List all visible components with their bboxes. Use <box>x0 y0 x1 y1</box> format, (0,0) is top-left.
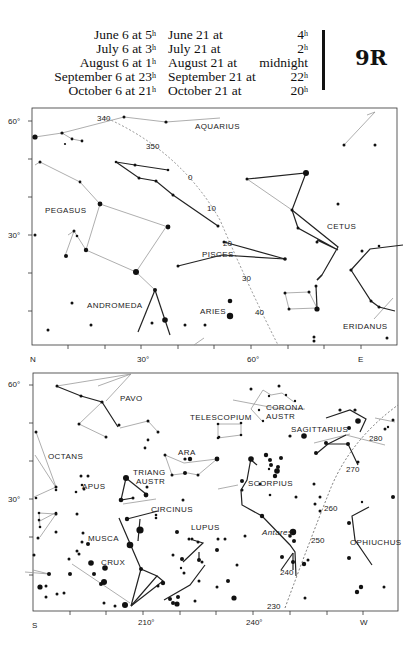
constellation-label: SCORPIUS <box>248 479 293 488</box>
x-axis-label: 210° <box>138 618 155 627</box>
constellation-label: AUSTR <box>136 477 165 486</box>
constellation-label: PAVO <box>120 394 143 403</box>
constellation-label: TELESCOPIUM <box>190 413 252 422</box>
x-axis-label: S <box>32 621 37 630</box>
constellation-label: CIRCINUS <box>151 505 193 514</box>
ecliptic-mark: 230 <box>267 602 281 611</box>
constellation-label: LUPUS <box>191 523 220 532</box>
star-label-antares: Antares <box>261 528 292 537</box>
constellation-label: APUS <box>82 482 105 491</box>
y-axis-label: 30° <box>8 495 20 504</box>
constellation-label: OCTANS <box>48 452 83 461</box>
constellation-label: OPHIUCHUS <box>350 538 402 547</box>
constellation-label: MUSCA <box>88 534 119 543</box>
constellation-label: ARA <box>178 448 196 457</box>
constellation-label: SAGITTARIUS <box>291 425 348 434</box>
ecliptic-mark: 270 <box>346 465 360 474</box>
constellation-label: TRIANG <box>133 468 166 477</box>
constellation-label: CRUX <box>101 558 126 567</box>
ecliptic-mark: 260 <box>324 504 338 513</box>
constellation-label: AUSTR <box>266 412 295 421</box>
south-star-map: 60° 30° S 210° 240° W 280 270 260 250 24… <box>0 0 418 647</box>
ecliptic-mark: 250 <box>311 536 325 545</box>
x-axis-label: 240° <box>246 618 263 627</box>
y-axis-label: 60° <box>8 380 20 389</box>
south-map-frame <box>33 373 398 611</box>
x-axis-label: W <box>360 618 368 627</box>
constellation-label: CORONA <box>266 403 304 412</box>
